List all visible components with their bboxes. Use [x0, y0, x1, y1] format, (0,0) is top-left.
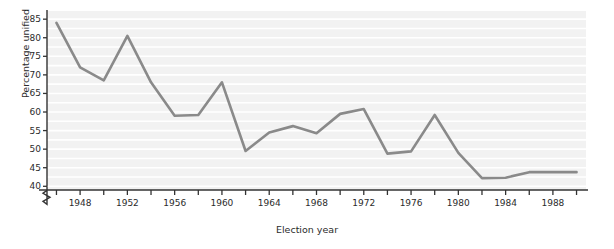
x-axis-tick-label: 1948 [59, 198, 101, 208]
y-axis-title: Percentage unified [20, 0, 31, 124]
x-axis-tick-label: 1960 [201, 198, 243, 208]
line-chart: 40455055606570758085 1948195219561960196… [0, 0, 614, 249]
x-axis-title: Election year [0, 224, 614, 235]
x-axis-tick-label: 1972 [343, 198, 385, 208]
x-axis-tick-label: 1976 [390, 198, 432, 208]
x-axis-tick-label: 1956 [154, 198, 196, 208]
y-axis-tick-label: 50 [19, 144, 41, 154]
x-axis-tick-label: 1988 [532, 198, 574, 208]
x-axis-tick-labels: 1948195219561960196419681972197619801984… [0, 198, 614, 214]
y-axis-tick-label: 55 [19, 126, 41, 136]
y-axis-tick-label: 45 [19, 163, 41, 173]
y-axis-tick-label: 40 [19, 181, 41, 191]
x-axis-tick-label: 1980 [437, 198, 479, 208]
x-axis-tick-label: 1964 [248, 198, 290, 208]
x-axis-tick-label: 1968 [296, 198, 338, 208]
x-axis-tick-label: 1952 [106, 198, 148, 208]
x-axis-tick-label: 1984 [485, 198, 527, 208]
